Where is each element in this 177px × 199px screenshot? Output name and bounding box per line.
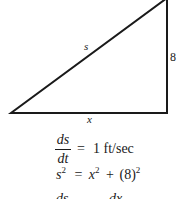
triangle-outline [11, 0, 167, 113]
pyth-lhs-exp: 2 [61, 165, 66, 175]
pythagorean-equation: s2 = x2 + (8)2 [56, 168, 140, 182]
horizontal-leg-label: x [87, 114, 92, 125]
hypotenuse-label: s [84, 41, 88, 52]
rate-value: 1 ft/sec [93, 142, 134, 156]
pyth-term2-exp: 2 [136, 165, 141, 175]
rate-fraction: ds dt [55, 133, 71, 166]
vertical-leg-label: 8 [170, 51, 176, 63]
pyth-term1-exp: 2 [95, 165, 100, 175]
rate-denominator: dt [58, 151, 69, 166]
partial-line-left: ds [56, 192, 68, 199]
pyth-term2: (8) [119, 167, 135, 182]
rate-numerator: ds [57, 132, 69, 147]
pyth-plus: + [106, 167, 114, 182]
rate-equals: = [77, 142, 85, 156]
pyth-equals: = [74, 167, 82, 182]
fraction-bar [55, 149, 71, 150]
partial-line-right: dx [109, 192, 122, 199]
